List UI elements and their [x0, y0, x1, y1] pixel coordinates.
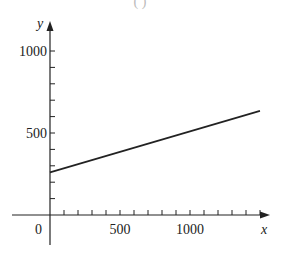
partial-caption: ( ): [134, 0, 147, 10]
data-series: [50, 111, 260, 173]
y-tick-label: 1000: [19, 44, 47, 59]
ticks: [50, 51, 260, 215]
x-tick-label: 1000: [176, 222, 204, 237]
x-axis-arrow-icon: [260, 212, 270, 219]
x-axis-label: x: [260, 222, 268, 237]
y-axis-arrow-icon: [47, 21, 54, 31]
series-line: [50, 111, 260, 173]
y-axis-label: y: [35, 16, 44, 31]
tick-labels: 500100050010000xy: [19, 16, 268, 237]
chart-root: ( ) 500100050010000xy: [0, 0, 283, 257]
origin-label: 0: [35, 222, 42, 237]
line-chart: ( ) 500100050010000xy: [0, 0, 283, 257]
y-tick-label: 500: [26, 126, 47, 141]
x-tick-label: 500: [110, 222, 131, 237]
